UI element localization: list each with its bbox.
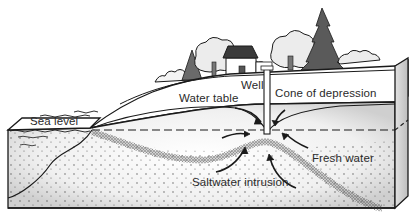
label-cone-of-depression: Cone of depression — [275, 88, 377, 100]
label-sea-level: Sea level — [30, 116, 78, 128]
label-saltwater-intrusion: Saltwater intrusion — [192, 177, 289, 189]
saltwater-intrusion-diagram: Well Water table Cone of depression Sea … — [0, 0, 412, 220]
label-water-table: Water table — [179, 93, 238, 105]
label-fresh-water: Fresh water — [312, 153, 374, 165]
label-well: Well — [241, 80, 264, 92]
